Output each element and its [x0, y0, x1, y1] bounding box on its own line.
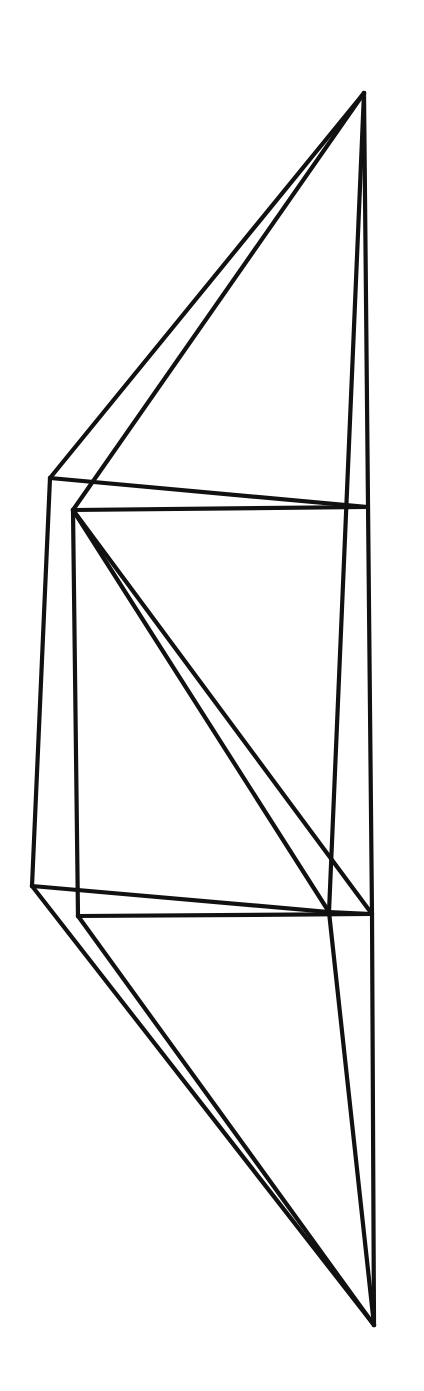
edge-B-F: [73, 510, 372, 914]
polyhedron-wireframe: [0, 0, 424, 1391]
edge-group: [32, 93, 374, 1325]
edge-T-A: [50, 93, 364, 478]
edge-B-D: [73, 510, 78, 916]
edge-C-G: [32, 886, 374, 1325]
edge-E-F: [329, 912, 372, 914]
edge-A-H: [50, 478, 368, 507]
edge-A-C: [32, 478, 50, 886]
edge-B-H: [73, 507, 368, 510]
edge-B-E: [73, 510, 329, 912]
edge-T-B: [73, 93, 364, 510]
edge-T-F: [364, 93, 372, 914]
edge-F-G: [372, 914, 374, 1325]
edge-D-G: [78, 916, 374, 1325]
edge-E-G: [329, 912, 374, 1325]
